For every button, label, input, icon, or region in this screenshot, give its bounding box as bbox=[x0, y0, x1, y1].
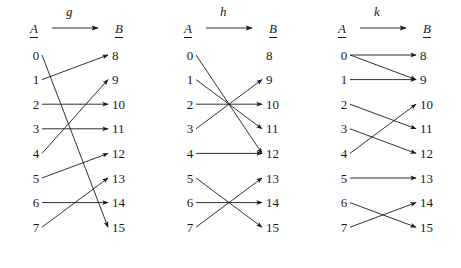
domain-node-k-1: 1 bbox=[334, 73, 354, 86]
codomain-node-h-8: 8 bbox=[266, 49, 286, 62]
arrow-g-5-to-12 bbox=[42, 153, 108, 178]
function-diagram-k: kAB0123456789101112131415 bbox=[308, 0, 461, 268]
codomain-node-k-14: 14 bbox=[420, 196, 440, 209]
codomain-header-k: B bbox=[423, 22, 431, 38]
domain-header-h: A bbox=[184, 22, 192, 38]
codomain-node-k-11: 11 bbox=[420, 122, 440, 135]
domain-header-k: A bbox=[338, 22, 346, 38]
domain-node-k-2: 2 bbox=[334, 98, 354, 111]
codomain-node-g-8: 8 bbox=[112, 49, 132, 62]
function-diagram-g: gAB0123456789101112131415 bbox=[0, 0, 154, 268]
codomain-node-k-15: 15 bbox=[420, 221, 440, 234]
domain-node-g-5: 5 bbox=[26, 172, 46, 185]
domain-node-k-3: 3 bbox=[334, 122, 354, 135]
codomain-node-g-11: 11 bbox=[112, 122, 132, 135]
codomain-node-h-12: 12 bbox=[266, 147, 286, 160]
codomain-node-g-14: 14 bbox=[112, 196, 132, 209]
domain-node-h-6: 6 bbox=[180, 196, 200, 209]
codomain-header-g: B bbox=[115, 22, 123, 38]
domain-node-h-7: 7 bbox=[180, 221, 200, 234]
map-name-h: h bbox=[220, 5, 227, 18]
domain-node-g-3: 3 bbox=[26, 122, 46, 135]
arrow-k-0-to-9 bbox=[350, 55, 416, 80]
codomain-header-h: B bbox=[269, 22, 277, 38]
arrow-k-2-to-11 bbox=[350, 104, 416, 129]
function-diagram-h: hAB0123456789101112131415 bbox=[154, 0, 308, 268]
arrow-k-4-to-10 bbox=[350, 104, 416, 153]
domain-node-g-2: 2 bbox=[26, 98, 46, 111]
codomain-node-g-13: 13 bbox=[112, 172, 132, 185]
domain-node-k-4: 4 bbox=[334, 147, 354, 160]
domain-node-g-0: 0 bbox=[26, 49, 46, 62]
codomain-node-h-15: 15 bbox=[266, 221, 286, 234]
domain-node-h-3: 3 bbox=[180, 122, 200, 135]
codomain-node-g-15: 15 bbox=[112, 221, 132, 234]
codomain-node-k-8: 8 bbox=[420, 49, 440, 62]
domain-node-k-6: 6 bbox=[334, 196, 354, 209]
codomain-node-k-13: 13 bbox=[420, 172, 440, 185]
codomain-node-k-9: 9 bbox=[420, 73, 440, 86]
codomain-node-g-12: 12 bbox=[112, 147, 132, 160]
codomain-node-h-13: 13 bbox=[266, 172, 286, 185]
domain-node-h-0: 0 bbox=[180, 49, 200, 62]
domain-header-g: A bbox=[30, 22, 38, 38]
codomain-node-h-11: 11 bbox=[266, 122, 286, 135]
domain-node-g-7: 7 bbox=[26, 221, 46, 234]
arrow-k-3-to-12 bbox=[350, 129, 416, 154]
domain-node-h-4: 4 bbox=[180, 147, 200, 160]
domain-node-g-1: 1 bbox=[26, 73, 46, 86]
domain-node-h-5: 5 bbox=[180, 172, 200, 185]
function-diagrams-figure: gAB0123456789101112131415hAB012345678910… bbox=[0, 0, 461, 268]
codomain-node-k-12: 12 bbox=[420, 147, 440, 160]
codomain-node-h-10: 10 bbox=[266, 98, 286, 111]
arrow-g-1-to-8 bbox=[42, 55, 108, 80]
domain-node-k-0: 0 bbox=[334, 49, 354, 62]
domain-node-h-2: 2 bbox=[180, 98, 200, 111]
domain-node-k-5: 5 bbox=[334, 172, 354, 185]
codomain-node-k-10: 10 bbox=[420, 98, 440, 111]
codomain-node-h-9: 9 bbox=[266, 73, 286, 86]
codomain-node-g-9: 9 bbox=[112, 73, 132, 86]
domain-node-g-4: 4 bbox=[26, 147, 46, 160]
domain-node-k-7: 7 bbox=[334, 221, 354, 234]
codomain-node-h-14: 14 bbox=[266, 196, 286, 209]
domain-node-g-6: 6 bbox=[26, 196, 46, 209]
domain-node-h-1: 1 bbox=[180, 73, 200, 86]
map-name-g: g bbox=[66, 5, 73, 18]
arrow-g-0-to-15 bbox=[42, 55, 108, 227]
codomain-node-g-10: 10 bbox=[112, 98, 132, 111]
map-name-k: k bbox=[374, 5, 380, 18]
